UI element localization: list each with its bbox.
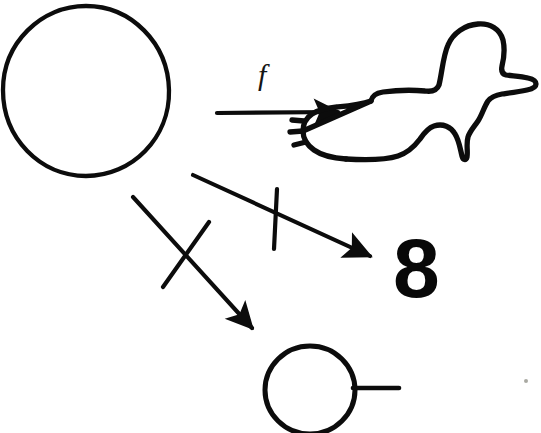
arrow-to-eight	[193, 175, 370, 256]
figure-canvas	[0, 0, 541, 433]
small-circle-with-tail	[265, 346, 399, 433]
arrow-to-small-circle	[133, 197, 252, 328]
large-circle	[3, 6, 169, 176]
function-mapping-figure: f 8	[0, 0, 541, 433]
negation-stroke-vertical	[274, 189, 277, 249]
duck-outline	[290, 24, 536, 160]
negation-stroke-diagonal	[163, 222, 209, 287]
scan-speck	[524, 379, 528, 383]
